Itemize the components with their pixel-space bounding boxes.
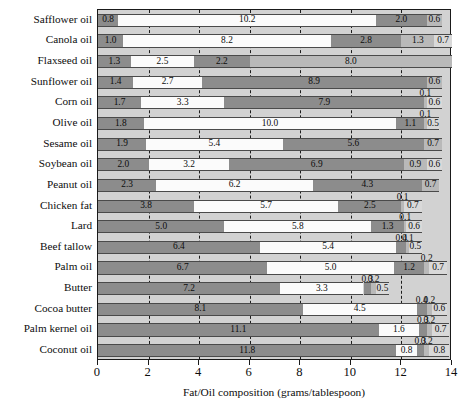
segment-value-label: 6.9 bbox=[311, 160, 323, 169]
segment-value-label: 0.9 bbox=[409, 160, 421, 169]
segment-value-label: 2.5 bbox=[364, 201, 376, 210]
segment-value-label: 2.8 bbox=[360, 36, 372, 45]
segment-value-label: 0.6 bbox=[428, 78, 440, 87]
segment-value-label: 1.3 bbox=[382, 222, 394, 231]
segment-value-label: 5.4 bbox=[322, 243, 334, 252]
bar-row: 6.45.40.40.10.5 bbox=[98, 241, 450, 254]
segment-value-label: 5.0 bbox=[325, 263, 337, 272]
segment-value-label: 10.2 bbox=[239, 16, 255, 25]
segment-value-label: 0.7 bbox=[407, 201, 419, 210]
segment-value-label: 4.3 bbox=[361, 181, 373, 190]
segment-value-label: 1.3 bbox=[109, 57, 121, 66]
segment-value-label: 0.5 bbox=[427, 119, 439, 128]
bar-row: 1.32.52.28.0 bbox=[98, 55, 450, 68]
segment-value-label: 1.4 bbox=[110, 78, 122, 87]
bar-row: 2.03.26.90.90.6 bbox=[98, 158, 450, 171]
segment-value-label: 4.5 bbox=[354, 305, 366, 314]
segment-value-label: 8.9 bbox=[308, 78, 320, 87]
x-axis: 02468101214 bbox=[97, 360, 451, 386]
segment-value-label: 0.8 bbox=[433, 346, 445, 355]
bar-row: 11.11.60.30.20.7 bbox=[98, 323, 450, 336]
category-label: Peanut oil bbox=[47, 179, 92, 190]
segment-value-label: 2.2 bbox=[216, 57, 228, 66]
segment-value-label: 0.7 bbox=[427, 139, 439, 148]
bar-row: 3.85.72.50.10.7 bbox=[98, 200, 450, 213]
segment-value-label: 0.7 bbox=[435, 325, 447, 334]
bar-row: 7.23.30.30.20.5 bbox=[98, 282, 450, 295]
segment-value-label: 2.5 bbox=[157, 57, 169, 66]
segment-value-label: 0.7 bbox=[437, 36, 449, 45]
category-label: Flaxseed oil bbox=[38, 55, 92, 66]
segment-value-label: 8.0 bbox=[345, 57, 357, 66]
category-label: Soybean oil bbox=[39, 158, 92, 169]
segment-value-label: 3.2 bbox=[183, 160, 195, 169]
segment-value-label: 1.2 bbox=[403, 263, 415, 272]
category-label: Chicken fat bbox=[40, 200, 92, 211]
segment-value-label: 3.8 bbox=[140, 201, 152, 210]
segment-value-label: 1.8 bbox=[115, 119, 127, 128]
bar-row: 0.810.22.00.6 bbox=[98, 14, 450, 27]
bar-row: 5.05.81.30.10.6 bbox=[98, 220, 450, 233]
bar-row: 1.810.01.10.10.5 bbox=[98, 117, 450, 130]
x-tick-label: 14 bbox=[445, 366, 458, 379]
x-tick-label: 12 bbox=[394, 366, 407, 379]
category-label: Butter bbox=[64, 282, 92, 293]
segment-value-label: 1.9 bbox=[116, 139, 128, 148]
segment-value-label: 2.0 bbox=[117, 160, 129, 169]
segment-value-label: 7.9 bbox=[318, 98, 330, 107]
x-tick-label: 2 bbox=[144, 366, 150, 379]
segment-value-label: 2.7 bbox=[162, 78, 174, 87]
segment-value-label: 1.6 bbox=[393, 325, 405, 334]
segment-value-label: 5.0 bbox=[155, 222, 167, 231]
x-tick-label: 10 bbox=[344, 366, 357, 379]
segment-value-label: 0.6 bbox=[428, 160, 440, 169]
segment-value-label: 0.6 bbox=[428, 98, 440, 107]
segment-value-label: 2.3 bbox=[121, 181, 133, 190]
x-tick-label: 8 bbox=[296, 366, 302, 379]
category-label: Safflower oil bbox=[33, 14, 92, 25]
segment-value-label: 5.7 bbox=[260, 201, 272, 210]
segment-value-label: 2.0 bbox=[396, 16, 408, 25]
segment-value-label: 0.6 bbox=[428, 16, 440, 25]
segment-value-label: 10.0 bbox=[262, 119, 278, 128]
segment-value-label: 5.4 bbox=[208, 139, 220, 148]
bar-series: 0.810.22.00.61.08.22.81.30.71.32.52.28.0… bbox=[98, 10, 450, 359]
segment-value-label: 6.4 bbox=[173, 243, 185, 252]
bar-row: 1.95.45.60.7 bbox=[98, 138, 450, 151]
category-axis: Safflower oilCanola oilFlaxseed oilSunfl… bbox=[0, 0, 96, 360]
category-label: Sunflower oil bbox=[31, 76, 92, 87]
segment-value-label: 3.3 bbox=[177, 98, 189, 107]
segment-value-label: 0.5 bbox=[409, 243, 421, 252]
bar-row: 8.14.50.40.20.6 bbox=[98, 303, 450, 316]
x-tick-label: 0 bbox=[94, 366, 100, 379]
segment-value-label: 1.7 bbox=[114, 98, 126, 107]
category-label: Palm oil bbox=[54, 261, 92, 272]
category-label: Cocoa butter bbox=[35, 303, 92, 314]
category-label: Coconut oil bbox=[39, 344, 92, 355]
segment-value-label: 1.1 bbox=[404, 119, 416, 128]
bar-row: 1.42.78.90.6 bbox=[98, 76, 450, 89]
category-label: Canola oil bbox=[46, 34, 92, 45]
x-tick-label: 6 bbox=[246, 366, 252, 379]
bar-row: 11.80.80.30.20.8 bbox=[98, 344, 450, 357]
segment-value-label: 11.1 bbox=[230, 325, 246, 334]
segment-value-label: 1.0 bbox=[105, 36, 117, 45]
segment-value-label: 0.8 bbox=[401, 346, 413, 355]
segment-value-label: 0.7 bbox=[432, 263, 444, 272]
segment-value-label: 6.2 bbox=[229, 181, 241, 190]
category-label: Olive oil bbox=[53, 117, 92, 128]
category-label: Beef tallow bbox=[40, 241, 92, 252]
category-label: Sesame oil bbox=[43, 138, 92, 149]
segment-value-label: 5.8 bbox=[292, 222, 304, 231]
bar-row: 6.75.01.20.20.7 bbox=[98, 261, 450, 274]
plot-area: 0.810.22.00.61.08.22.81.30.71.32.52.28.0… bbox=[97, 9, 451, 360]
category-label: Lard bbox=[71, 220, 92, 231]
bar-row: 1.08.22.81.30.7 bbox=[98, 34, 450, 47]
segment-value-label: 3.3 bbox=[316, 284, 328, 293]
segment-value-label: 5.6 bbox=[348, 139, 360, 148]
chart-container: Safflower oilCanola oilFlaxseed oilSunfl… bbox=[0, 0, 474, 418]
segment-value-label: 6.7 bbox=[177, 263, 189, 272]
segment-value-label: 0.6 bbox=[433, 305, 445, 314]
category-label: Corn oil bbox=[55, 96, 92, 107]
segment-value-label: 8.1 bbox=[195, 305, 207, 314]
